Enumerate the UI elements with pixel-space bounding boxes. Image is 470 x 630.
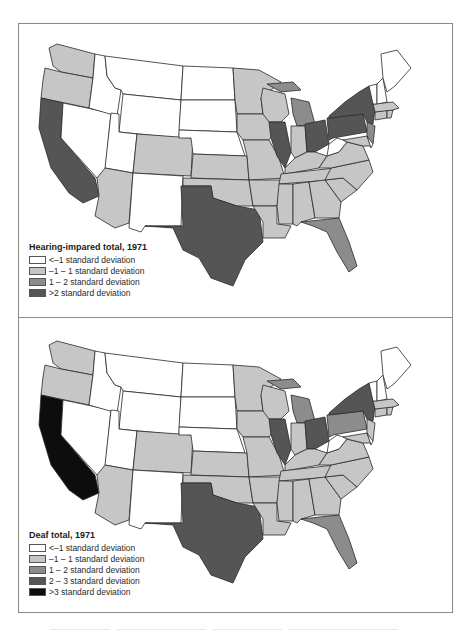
state-wi [261,385,289,419]
legend-label: –1 – 1 standard deviation [49,554,144,564]
state-nd [181,66,235,100]
deaf-map-panel: Deaf total, 1971 <–1 standard deviation … [19,318,452,613]
figure-frame: Hearing-impared total, 1971 <–1 standard… [18,23,453,613]
legend-item: –1 – 1 standard deviation [29,265,147,276]
legend-label: >3 standard deviation [49,587,131,597]
state-ri [387,110,393,118]
legend-swatch [29,267,46,275]
state-ks [191,154,249,180]
state-fl [301,218,357,272]
state-az [95,168,133,228]
legend-swatch [29,555,46,563]
legend-swatch [29,577,46,585]
legend-label: 1 – 2 standard deviation [49,565,140,575]
state-fl [301,515,357,569]
state-nm [129,470,183,529]
legend-label: <–1 standard deviation [49,543,135,553]
legend-item: –1 – 1 standard deviation [29,553,144,564]
legend-item: >3 standard deviation [29,586,144,597]
legend-item: 2 – 3 standard deviation [29,575,144,586]
legend-swatch [29,256,46,264]
state-ms [277,184,293,224]
state-sd [179,100,237,132]
legend-deaf: Deaf total, 1971 <–1 standard deviation … [29,530,144,597]
legend-label: 1 – 2 standard deviation [49,277,140,287]
state-co [133,431,193,473]
legend-title: Hearing-impared total, 1971 [29,242,147,252]
state-co [133,134,193,176]
legend-item: 1 – 2 standard deviation [29,276,147,287]
legend-swatch [29,278,46,286]
legend-item: 1 – 2 standard deviation [29,564,144,575]
legend-label: <–1 standard deviation [49,255,135,265]
state-wi [261,88,289,122]
state-me [381,347,411,389]
legend-swatch [29,544,46,552]
legend-item: <–1 standard deviation [29,254,147,265]
hearing-impaired-map-panel: Hearing-impared total, 1971 <–1 standard… [19,24,452,317]
legend-item: <–1 standard deviation [29,542,144,553]
state-az [95,465,133,525]
state-ri [387,407,393,415]
legend-item: >2 standard deviation [29,287,147,298]
state-nm [129,173,183,232]
state-sd [179,397,237,429]
state-ar [249,477,281,503]
legend-hearing-impaired: Hearing-impared total, 1971 <–1 standard… [29,242,147,298]
legend-swatch [29,588,46,596]
state-oh [305,120,329,152]
legend-swatch [29,289,46,297]
state-wy [119,391,181,435]
legend-label: –1 – 1 standard deviation [49,266,144,276]
legend-label: >2 standard deviation [49,288,131,298]
state-oh [305,417,329,449]
state-ks [191,451,249,477]
state-ms [277,481,293,521]
legend-label: 2 – 3 standard deviation [49,576,140,586]
state-wy [119,94,181,138]
state-nd [181,363,235,397]
legend-swatch [29,566,46,574]
figure-caption-illegible [50,618,430,624]
state-me [381,50,411,92]
state-ar [249,180,281,206]
legend-title: Deaf total, 1971 [29,530,144,540]
